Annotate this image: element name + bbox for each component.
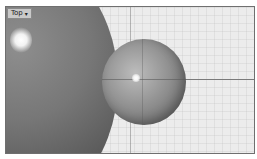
large-sphere-highlight xyxy=(10,27,32,53)
viewport-label-text: Top xyxy=(11,9,23,18)
viewport-label-button[interactable]: Top ▾ xyxy=(7,8,32,19)
small-sphere-isocurve-vertical xyxy=(142,39,143,125)
viewport-top[interactable]: Top ▾ xyxy=(5,6,255,154)
chevron-down-icon: ▾ xyxy=(25,9,28,18)
small-sphere[interactable] xyxy=(102,39,186,125)
small-sphere-highlight xyxy=(132,74,140,82)
small-sphere-isocurve-horizontal xyxy=(102,79,186,80)
